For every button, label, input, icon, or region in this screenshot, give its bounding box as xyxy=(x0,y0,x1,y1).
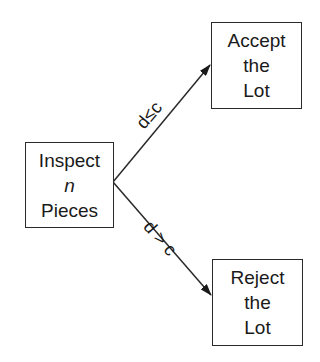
reject-node-line1: Reject xyxy=(231,265,285,290)
reject-node-line3: Lot xyxy=(244,315,270,340)
accept-node-line3: Lot xyxy=(243,78,269,103)
inspect-node-line1: Inspect xyxy=(39,148,100,173)
arrow-to-accept xyxy=(113,65,210,182)
reject-the-lot-node: Reject the Lot xyxy=(212,259,303,346)
inspect-node-line2: n xyxy=(64,173,75,198)
accept-node-line2: the xyxy=(243,53,269,78)
accept-the-lot-node: Accept the Lot xyxy=(211,22,302,109)
reject-node-line2: the xyxy=(244,290,270,315)
inspect-n-pieces-node: Inspect n Pieces xyxy=(25,142,114,228)
accept-node-line1: Accept xyxy=(227,28,285,53)
inspect-node-line3: Pieces xyxy=(41,198,98,223)
